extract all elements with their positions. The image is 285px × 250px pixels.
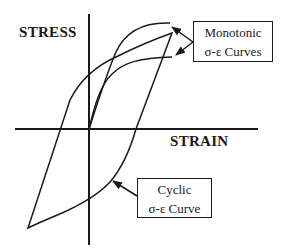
cyclic-arrow [113,181,137,196]
strain-axis-label: STRAIN [170,133,228,150]
monotonic-callout-line2: σ-ε Curves [194,42,272,61]
monotonic-arrow-lower [176,42,193,55]
monotonic-curves-callout: Monotonic σ-ε Curves [193,21,273,62]
cyclic-callout-line2: σ-ε Curve [138,199,211,218]
cyclic-callout-line1: Cyclic [138,180,211,199]
cyclic-curve-callout: Cyclic σ-ε Curve [137,178,212,218]
monotonic-callout-line1: Monotonic [194,23,272,42]
monotonic-arrow-upper [172,27,193,42]
stress-axis-label: STRESS [19,24,77,41]
